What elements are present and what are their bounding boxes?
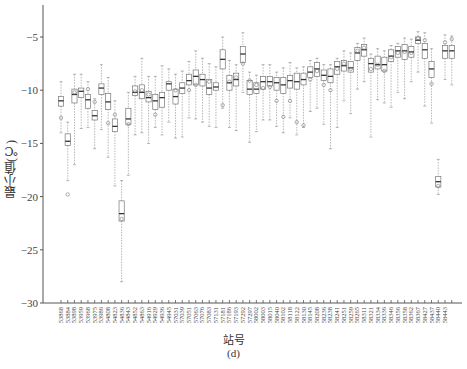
box-54852 xyxy=(133,76,138,135)
box-58015 xyxy=(267,65,272,120)
x-tick-label: 58443 xyxy=(441,307,448,323)
box-58321 xyxy=(368,54,373,137)
box-58003 xyxy=(261,65,266,120)
box-54863 xyxy=(139,58,144,132)
y-tick-label: −20 xyxy=(21,191,39,203)
box-54836 xyxy=(119,181,124,282)
box-58238 xyxy=(328,65,333,149)
box-58251 xyxy=(341,51,346,101)
box-58367 xyxy=(415,32,420,72)
box-53986 xyxy=(99,65,104,130)
y-tick-label: −5 xyxy=(26,31,38,43)
box-54936 xyxy=(159,66,164,135)
box-57131 xyxy=(213,67,218,128)
box-58440 xyxy=(436,159,441,194)
box-58362 xyxy=(409,39,414,82)
x-axis-label: 站号 xyxy=(0,331,467,347)
box-53975 xyxy=(92,99,97,149)
box-57076 xyxy=(200,58,205,122)
box-58002 xyxy=(254,75,259,131)
box-58259 xyxy=(348,53,353,114)
box-57297 xyxy=(247,72,252,142)
box-58208 xyxy=(314,58,319,108)
box-58265 xyxy=(355,43,360,89)
box-54808 xyxy=(106,77,111,157)
box-57193 xyxy=(234,65,239,131)
box-53968 xyxy=(85,82,90,128)
box-58102 xyxy=(281,68,286,133)
box-54823 xyxy=(112,101,117,186)
box-58236 xyxy=(321,65,326,125)
y-tick-label: −25 xyxy=(21,244,39,256)
box-58040 xyxy=(274,72,279,126)
figure-caption: (d) xyxy=(0,347,467,359)
box-58311 xyxy=(362,38,367,82)
box-57031 xyxy=(173,74,178,138)
box-58118 xyxy=(287,63,292,118)
box-58122 xyxy=(294,68,299,135)
box-54945 xyxy=(166,69,171,122)
box-58427 xyxy=(422,33,427,106)
y-tick-label: −15 xyxy=(21,137,39,149)
box-53884 xyxy=(65,122,70,196)
box-53898 xyxy=(72,74,77,164)
box-58336 xyxy=(382,51,387,103)
box-58346 xyxy=(389,46,394,108)
box-57181 xyxy=(220,37,225,108)
box-58443 xyxy=(442,35,447,80)
box-53868 xyxy=(58,82,63,133)
box-54843 xyxy=(126,92,131,175)
y-tick-label: −10 xyxy=(21,84,39,96)
box-57083 xyxy=(207,64,212,127)
box-58334 xyxy=(375,49,380,100)
box-57039 xyxy=(180,71,185,137)
boxes xyxy=(58,32,454,282)
box-53959 xyxy=(79,74,84,128)
box-58356 xyxy=(395,43,400,92)
box-58358 xyxy=(402,38,407,99)
box-58437 xyxy=(429,49,434,123)
box-57051 xyxy=(186,61,191,117)
box-58241 xyxy=(335,58,340,127)
box-58130 xyxy=(301,67,306,128)
box-undefined xyxy=(449,36,454,85)
y-axis-label: 最小值(℃) xyxy=(2,140,22,198)
box-54916 xyxy=(146,76,151,143)
box-plot-chart: −5−10−15−20−25−30 5386853884538985395953… xyxy=(0,0,467,369)
box-58145 xyxy=(308,60,313,111)
box-54929 xyxy=(153,76,158,127)
box-57292 xyxy=(240,33,245,93)
y-tick-label: −30 xyxy=(21,297,39,309)
box-57063 xyxy=(193,51,198,119)
box-57186 xyxy=(227,60,232,127)
